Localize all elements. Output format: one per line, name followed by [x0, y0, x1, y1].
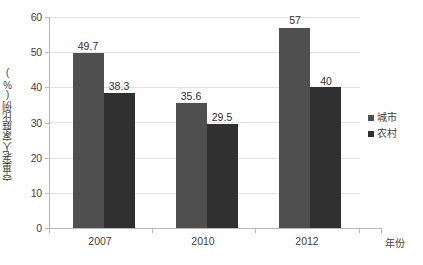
legend-item-urban[interactable]: 城市 [368, 110, 397, 126]
x-tick-label-2012: 2012 [272, 235, 342, 247]
x-tick-label-2010: 2010 [168, 235, 238, 247]
x-axis-line [49, 228, 382, 229]
bar-rural-2010[interactable] [207, 124, 238, 228]
y-tick-label-0: 0 [14, 222, 42, 234]
x-tick-mark-end [381, 228, 382, 233]
data-label-urban-2012: 57 [289, 14, 301, 26]
x-tick-mark-2 [255, 228, 256, 233]
y-tick-mark-20 [45, 158, 49, 159]
y-tick-mark-60 [45, 17, 49, 18]
bar-chart-figure: 60 50 40 30 20 10 0 2007 2010 2012 空巢老人家… [0, 0, 423, 265]
data-label-rural-2010: 29.5 [212, 111, 232, 123]
data-label-urban-2010: 35.6 [181, 90, 201, 102]
legend-swatch-icon-rural [368, 131, 374, 137]
x-tick-mark-1 [152, 228, 153, 233]
legend-label-urban: 城市 [377, 110, 397, 126]
y-tick-label-30: 30 [14, 117, 42, 129]
legend-item-rural[interactable]: 农村 [368, 126, 397, 142]
y-axis-line [49, 17, 50, 229]
y-tick-label-10: 10 [14, 187, 42, 199]
y-tick-mark-40 [45, 87, 49, 88]
y-tick-mark-10 [45, 193, 49, 194]
gridline-60 [49, 17, 360, 18]
y-axis-title: 空巢老人家庭比例(%) [2, 50, 17, 200]
data-label-urban-2007: 49.7 [78, 40, 98, 52]
bar-urban-2012[interactable] [279, 28, 310, 229]
x-tick-mark-3 [359, 228, 360, 233]
bar-urban-2010[interactable] [176, 103, 207, 228]
y-tick-mark-30 [45, 123, 49, 124]
legend: 城市 农村 [368, 110, 397, 142]
y-tick-label-60: 60 [14, 11, 42, 23]
data-label-rural-2007: 38.3 [109, 80, 129, 92]
y-tick-label-20: 20 [14, 152, 42, 164]
x-axis-title: 年份 [385, 235, 405, 250]
bar-rural-2007[interactable] [104, 93, 135, 228]
y-tick-mark-50 [45, 52, 49, 53]
y-tick-label-50: 50 [14, 46, 42, 58]
x-tick-mark-start [49, 228, 50, 233]
legend-swatch-icon-urban [368, 115, 374, 121]
bar-urban-2007[interactable] [73, 53, 104, 228]
y-tick-label-40: 40 [14, 81, 42, 93]
data-label-rural-2012: 40 [320, 75, 332, 87]
x-tick-label-2007: 2007 [65, 235, 135, 247]
bar-rural-2012[interactable] [310, 87, 341, 228]
legend-label-rural: 农村 [377, 126, 397, 142]
